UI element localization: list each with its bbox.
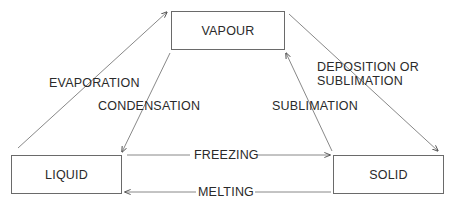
liquid-box: LIQUID bbox=[11, 155, 122, 194]
melting-label: MELTING bbox=[198, 185, 254, 200]
deposition-label-line2: SUBLIMATION bbox=[317, 74, 403, 89]
vapour-box: VAPOUR bbox=[171, 11, 285, 50]
solid-label: SOLID bbox=[369, 168, 408, 182]
solid-box: SOLID bbox=[333, 155, 444, 194]
vapour-label: VAPOUR bbox=[201, 24, 254, 38]
evaporation-label: EVAPORATION bbox=[49, 76, 140, 91]
sublimation-label: SUBLIMATION bbox=[272, 99, 358, 114]
deposition-label-line1: DEPOSITION OR bbox=[317, 60, 419, 75]
liquid-label: LIQUID bbox=[45, 168, 88, 182]
condensation-label: CONDENSATION bbox=[98, 99, 200, 114]
freezing-label: FREEZING bbox=[194, 148, 259, 163]
